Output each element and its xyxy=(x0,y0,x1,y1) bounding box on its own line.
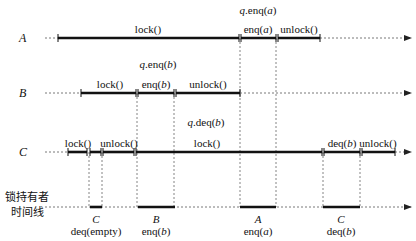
thread-b-call-annotation: q.enq(b) xyxy=(140,58,177,70)
thread-b-unlock-label: unlock() xyxy=(189,78,226,90)
thread-a-lock-label: lock() xyxy=(135,23,161,35)
timeline-op-2: enq(b) xyxy=(142,225,171,237)
thread-c-line xyxy=(45,148,411,156)
thread-a-line xyxy=(45,34,411,42)
timeline-holder-4: C xyxy=(337,213,344,225)
thread-b-enq-label: enq(b) xyxy=(142,78,171,90)
timeline-holder-2: B xyxy=(153,213,160,225)
thread-b-line xyxy=(45,89,411,97)
timeline-op-1: deq(empty) xyxy=(71,225,122,237)
thread-c-unlock1-label: unlock() xyxy=(100,137,137,149)
timeline-op-4: deq(b) xyxy=(327,225,356,237)
thread-c-lock2-label: lock() xyxy=(194,137,220,149)
thread-a-enq-label: enq(a) xyxy=(244,23,273,35)
thread-b-lock-label: lock() xyxy=(97,78,123,90)
timeline-holder-3: A xyxy=(255,213,262,225)
thread-b-name: B xyxy=(19,87,26,99)
thread-a-name: A xyxy=(19,32,26,44)
thread-c-lock1-label: lock() xyxy=(65,137,91,149)
lock-holder-timeline-label: 锁持有者 时间线 xyxy=(0,190,54,220)
thread-c-unlock2-label: unlock() xyxy=(359,137,396,149)
timeline-holder-1: C xyxy=(92,213,99,225)
thread-c-name: C xyxy=(19,146,27,158)
thread-c-call-annotation: q.deq(b) xyxy=(188,116,225,128)
timeline-op-3: enq(a) xyxy=(244,225,273,237)
timeline-label-line2: 时间线 xyxy=(0,205,54,220)
timeline-label-line1: 锁持有者 xyxy=(0,190,54,205)
thread-a-unlock-label: unlock() xyxy=(280,23,317,35)
thread-c-deq-label: deq(b) xyxy=(328,137,357,149)
lock-timeline-diagram: A B C q.enq(a) q.enq(b) q.deq(b) lock() … xyxy=(0,0,416,241)
thread-a-call-annotation: q.enq(a) xyxy=(240,4,277,16)
